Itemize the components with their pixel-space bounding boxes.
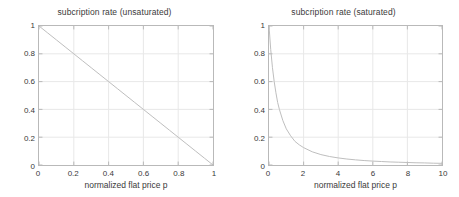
data-series-line xyxy=(39,26,213,165)
ytick-label: 1 xyxy=(31,21,35,30)
plot-area-unsaturated xyxy=(38,25,214,166)
ytick-label: 0.6 xyxy=(254,77,265,86)
xtick-label: 6 xyxy=(371,169,375,178)
data-series-line xyxy=(269,26,442,163)
xtick-label: 0 xyxy=(266,169,270,178)
xtick-label: 4 xyxy=(336,169,340,178)
xaxis-label-saturated: normalized flat price p xyxy=(268,180,443,190)
ytick-label: 0.8 xyxy=(24,49,35,58)
xtick-label: 2 xyxy=(301,169,305,178)
ytick-label: 0.4 xyxy=(24,105,35,114)
chart-title-unsaturated: subcription rate (unsaturated) xyxy=(0,7,229,17)
plot-svg-saturated xyxy=(269,26,442,165)
figure-container: subcription rate (unsaturated) 00.20.40.… xyxy=(0,0,459,197)
ytick-label: 0 xyxy=(261,162,265,171)
xtick-label: 0.6 xyxy=(138,169,149,178)
ytick-label: 0.6 xyxy=(24,77,35,86)
ytick-label: 0 xyxy=(31,162,35,171)
chart-title-saturated: subcription rate (saturated) xyxy=(229,7,458,17)
ytick-label: 1 xyxy=(261,21,265,30)
xtick-label: 1 xyxy=(212,169,216,178)
plot-svg-unsaturated xyxy=(39,26,213,165)
xtick-label: 10 xyxy=(439,169,448,178)
ytick-label: 0.2 xyxy=(254,133,265,142)
chart-panel-saturated: subcription rate (saturated) 024681000.2… xyxy=(229,0,458,197)
chart-panel-unsaturated: subcription rate (unsaturated) 00.20.40.… xyxy=(0,0,229,197)
xtick-label: 0 xyxy=(36,169,40,178)
ytick-label: 0.4 xyxy=(254,105,265,114)
ytick-label: 0.8 xyxy=(254,49,265,58)
plot-area-saturated xyxy=(268,25,443,166)
xtick-label: 8 xyxy=(406,169,410,178)
xaxis-label-unsaturated: normalized flat price p xyxy=(38,180,214,190)
xtick-label: 0.4 xyxy=(103,169,114,178)
ytick-label: 0.2 xyxy=(24,133,35,142)
xtick-label: 0.2 xyxy=(68,169,79,178)
xtick-label: 0.8 xyxy=(173,169,184,178)
